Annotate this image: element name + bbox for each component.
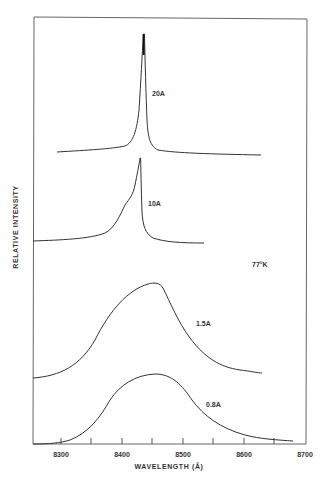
temperature-annotation: 77°K [252,261,268,268]
series-label-10a: 10A [148,200,161,207]
x-tick-8300: 8300 [53,451,69,458]
x-axis-ticks [61,438,274,444]
curve-0-8a [33,374,293,444]
series-label-20a: 20A [152,90,165,97]
series-label-0-8a: 0.8A [206,401,221,408]
curve-1-5a [33,283,262,378]
series-label-1-5a: 1.5A [196,320,211,327]
x-axis-label: WAVELENGTH (Å) [135,462,204,471]
x-tick-8400: 8400 [114,451,130,458]
x-tick-8700: 8700 [297,451,313,458]
plot-frame [33,17,307,444]
spectrum-chart: 8300 8400 8500 8600 8700 WAVELENGTH (Å) … [0,0,328,486]
x-tick-8500: 8500 [175,451,191,458]
x-tick-8600: 8600 [236,451,252,458]
curve-10a [33,158,204,243]
y-axis-label: RELATIVE INTENSITY [12,185,19,268]
